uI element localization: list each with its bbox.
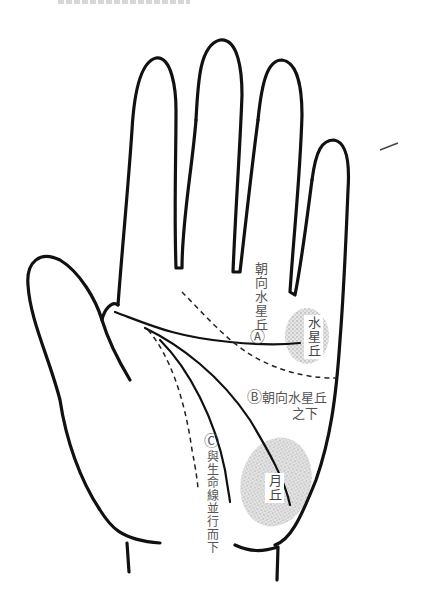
wrist-right: [235, 545, 278, 580]
label-b-text: 朝向水星丘: [262, 390, 327, 405]
mercury-mount-label: 水星丘: [304, 315, 323, 359]
wrist-left: [127, 543, 129, 572]
label-b-marker: Ⓑ: [247, 388, 262, 406]
label-a-text: 朝向水星丘: [252, 262, 268, 332]
index-finger-outline: [118, 58, 196, 305]
thumb-outline: [28, 256, 160, 543]
ring-finger-outline: [258, 60, 312, 295]
label-a-marker: Ⓐ: [250, 329, 265, 345]
thumb-crease: [102, 320, 130, 380]
middle-finger-outline: [196, 40, 258, 272]
moon-mount-label: 月丘: [265, 473, 284, 503]
stray-mark: [380, 143, 398, 150]
head-line-a: [115, 312, 300, 344]
label-c-marker: Ⓒ: [204, 433, 219, 449]
label-b-line1: Ⓑ朝向水星丘: [247, 389, 327, 406]
label-b-line2: 之下: [292, 406, 318, 422]
head-line-c: [160, 340, 230, 502]
label-c-text: 與生命線並行而下: [204, 450, 218, 554]
